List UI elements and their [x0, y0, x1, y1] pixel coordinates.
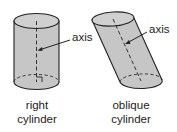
- right-caption-line2: cylinder: [17, 113, 57, 125]
- oblique-axis-label: axis: [149, 23, 170, 35]
- right-cylinder: [14, 14, 70, 90]
- oblique-caption-line1: oblique: [112, 99, 149, 111]
- oblique-caption-line2: cylinder: [111, 113, 151, 125]
- right-caption-line1: right: [26, 99, 49, 111]
- right-axis-label: axis: [72, 31, 93, 43]
- cylinders-diagram: axis right cylinder axis oblique cylinde…: [0, 0, 177, 132]
